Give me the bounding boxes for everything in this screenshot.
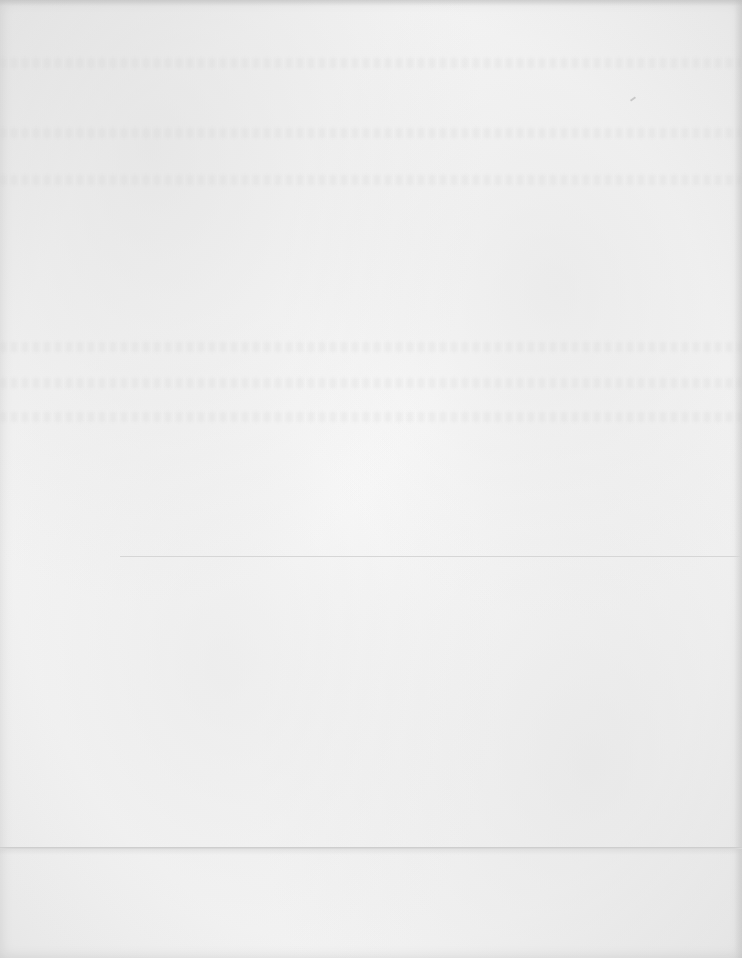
bleed-through-text-line [0, 128, 742, 138]
paper-speck [630, 96, 636, 101]
scanned-page [0, 0, 742, 958]
fold-shadow [0, 849, 742, 855]
bleed-through-text-line [0, 175, 742, 185]
bleed-through-text-line [0, 58, 742, 68]
bleed-through-text-line [0, 378, 742, 388]
bleed-through-text-line [0, 342, 742, 352]
page-right-edge-shadow [734, 0, 742, 958]
page-top-edge-shadow [0, 0, 742, 6]
bleed-through-text-line [0, 412, 742, 422]
horizontal-rule [120, 556, 742, 557]
